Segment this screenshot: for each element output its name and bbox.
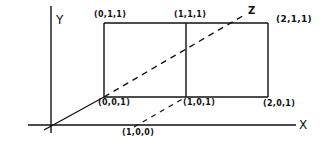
point-label-0-1-1: (0,1,1) (94, 11, 126, 19)
y-axis-label: Y (56, 14, 63, 26)
point-label-1-0-1: (1,0,1) (183, 99, 215, 107)
z-axis-dashed (104, 14, 246, 97)
x-axis-label: X (299, 119, 307, 131)
point-label-1-0-0: (1,0,0) (122, 129, 154, 137)
point-label-1-1-1: (1,1,1) (174, 11, 206, 19)
coordinate-diagram: Y X Z (0,1,1) (1,1,1) (2,1,1) (0,0,1) (1… (0, 0, 328, 145)
point-label-0-0-1: (0,0,1) (98, 99, 130, 107)
z-axis-label: Z (248, 6, 255, 16)
dashed-1-0-0-to-1-0-1 (134, 98, 184, 127)
point-label-2-0-1: (2,0,1) (263, 100, 295, 108)
point-label-2-1-1: (2,1,1) (276, 15, 312, 24)
